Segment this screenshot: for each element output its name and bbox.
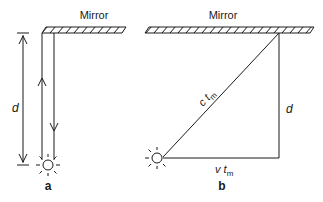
panel-a: Mirror d	[12, 9, 126, 193]
light-source-icon-b	[145, 147, 166, 169]
hypotenuse-label: c tm	[196, 87, 220, 111]
vertical-label: d	[286, 102, 293, 116]
mirror-label-a: Mirror	[80, 9, 109, 21]
panel-label-a: a	[45, 179, 52, 193]
mirror-b	[145, 27, 314, 33]
panel-b: Mirror c tm d v tm b	[145, 9, 314, 193]
upward-ray	[38, 33, 46, 160]
distance-label-a: d	[12, 101, 19, 115]
mirror-label-b: Mirror	[209, 9, 238, 21]
mirror-a	[42, 27, 126, 33]
hypotenuse-line	[163, 33, 279, 157]
light-clock-diagram: Mirror d	[0, 0, 323, 202]
panel-label-b: b	[218, 179, 225, 193]
downward-ray	[50, 33, 58, 160]
light-source-icon-a	[36, 154, 60, 176]
horizontal-label: v tm	[215, 163, 234, 178]
distance-arrow-a	[17, 33, 29, 165]
